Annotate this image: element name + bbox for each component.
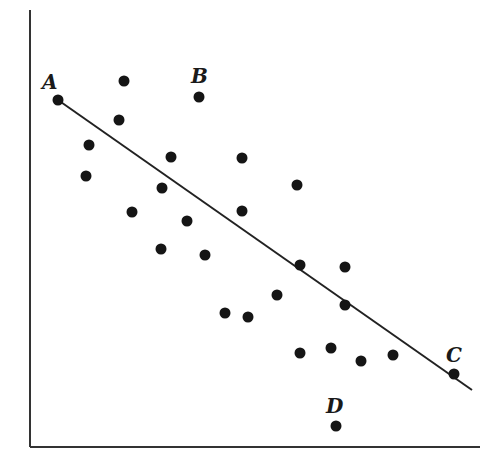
data-point	[127, 207, 138, 218]
data-point	[340, 300, 351, 311]
regression-line	[58, 100, 472, 390]
data-point	[237, 153, 248, 164]
data-point-b	[194, 92, 205, 103]
data-point	[114, 115, 125, 126]
data-point	[340, 262, 351, 273]
data-point	[119, 76, 130, 87]
data-point	[220, 308, 231, 319]
point-label-b: B	[190, 64, 208, 88]
data-point	[81, 171, 92, 182]
data-point	[243, 312, 254, 323]
data-point	[388, 350, 399, 361]
data-point	[237, 206, 248, 217]
data-point-a	[53, 95, 64, 106]
point-label-a: A	[40, 70, 58, 94]
data-point	[272, 290, 283, 301]
point-label-c: C	[446, 343, 462, 367]
data-point	[84, 140, 95, 151]
data-point-d	[331, 421, 342, 432]
data-point	[166, 152, 177, 163]
point-label-d: D	[325, 394, 344, 418]
point-labels: ABCD	[40, 64, 462, 418]
data-point	[157, 183, 168, 194]
data-points	[53, 76, 460, 432]
data-point	[295, 348, 306, 359]
data-point	[326, 343, 337, 354]
scatter-chart: ABCD	[0, 0, 501, 474]
data-point	[200, 250, 211, 261]
data-point	[295, 260, 306, 271]
data-point	[292, 180, 303, 191]
data-point-c	[449, 369, 460, 380]
data-point	[182, 216, 193, 227]
data-point	[156, 244, 167, 255]
data-point	[356, 356, 367, 367]
